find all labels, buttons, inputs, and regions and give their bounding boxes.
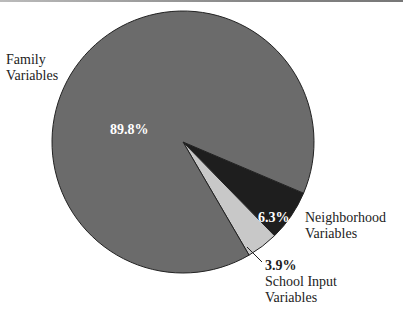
label-family-line1: Family — [6, 52, 58, 68]
label-school-line2: Variables — [265, 290, 337, 306]
pct-neighborhood: 6.3% — [258, 210, 290, 226]
label-family: Family Variables — [6, 52, 58, 84]
label-neighborhood-line1: Neighborhood — [305, 210, 386, 226]
label-neighborhood: Neighborhood Variables — [305, 210, 386, 242]
label-school-line1: School Input — [265, 274, 337, 290]
label-neighborhood-line2: Variables — [305, 226, 386, 242]
label-family-line2: Variables — [6, 68, 58, 84]
label-school: 3.9% School Input Variables — [265, 258, 337, 306]
pct-family: 89.8% — [110, 122, 149, 138]
pct-school: 3.9% — [265, 258, 337, 274]
pie-chart — [0, 0, 403, 310]
